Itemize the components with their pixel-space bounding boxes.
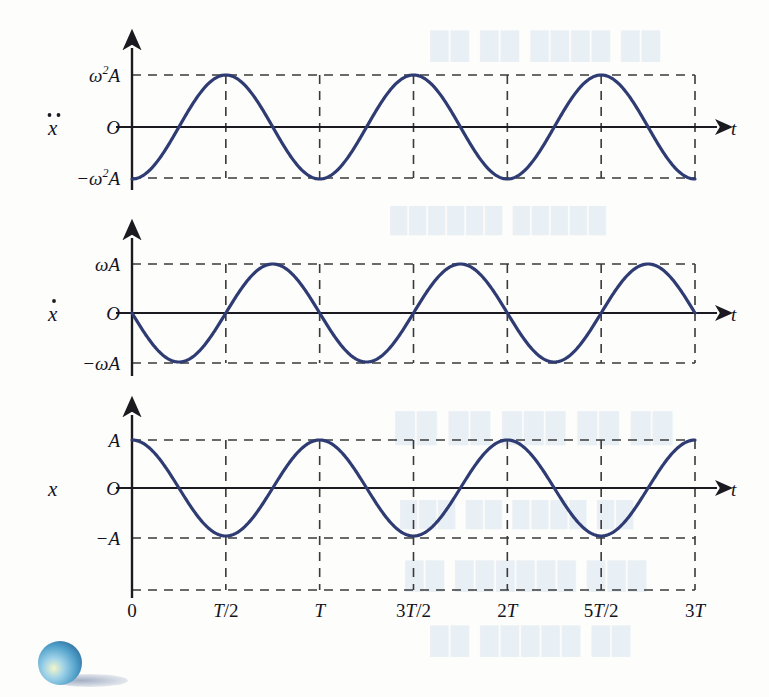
variable-label-velocity: x — [47, 302, 58, 326]
t-axis-label: t — [731, 304, 737, 325]
x-tick-label: 3T — [685, 600, 707, 621]
dot-accent — [48, 113, 52, 117]
y-tick-label-min: −A — [96, 528, 121, 549]
x-tick-label: 0 — [127, 600, 137, 621]
dot-accent — [52, 299, 56, 303]
panel-velocity: ωAO−ωAtx — [47, 238, 737, 376]
y-tick-label-max: ωA — [95, 254, 120, 275]
blue-sphere-bullet-icon — [38, 641, 82, 685]
t-axis-label: t — [731, 118, 737, 139]
y-tick-label-max: A — [106, 430, 120, 451]
y-tick-label-min: −ω2A — [76, 166, 120, 189]
origin-label: O — [106, 117, 120, 138]
shm-graphs-svg: ω2AO−ω2AtxωAO−ωAtxAO−Atx 0T/2T3T/22T5T/2… — [0, 0, 769, 697]
panel-acceleration: ω2AO−ω2Atx — [47, 48, 737, 190]
y-tick-label-max: ω2A — [89, 63, 120, 86]
x-tick-label: 2T — [497, 600, 519, 621]
panel-displacement: AO−Atx — [47, 415, 737, 598]
x-tick-label: 5T/2 — [584, 600, 619, 621]
dot-accent — [57, 113, 61, 117]
x-tick-label: T — [314, 600, 326, 621]
panels-group: ω2AO−ω2AtxωAO−ωAtxAO−Atx — [47, 48, 737, 598]
origin-label: O — [106, 303, 120, 324]
figure-canvas: ██ ██ ████ ████████ ███████ ██ ███ ██ ██… — [0, 0, 769, 697]
x-tick-label: 3T/2 — [396, 600, 431, 621]
x-tick-labels-group: 0T/2T3T/22T5T/23T — [127, 600, 706, 621]
variable-label-displacement: x — [47, 477, 58, 501]
t-axis-label: t — [731, 479, 737, 500]
origin-label: O — [106, 478, 120, 499]
x-tick-label: T/2 — [213, 600, 238, 621]
variable-label-acceleration: x — [47, 116, 58, 140]
y-tick-label-min: −ωA — [82, 353, 120, 374]
